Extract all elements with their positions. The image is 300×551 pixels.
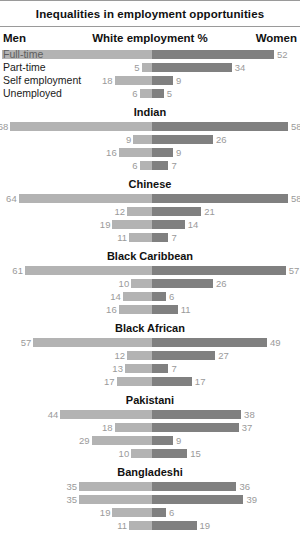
men-value-label: 29 <box>79 434 90 447</box>
women-value-label: 5 <box>167 87 172 100</box>
men-bar <box>119 148 152 157</box>
men-bar <box>142 63 152 72</box>
men-value-label: 68 <box>0 120 8 133</box>
men-bar <box>125 364 152 373</box>
women-bar <box>152 63 232 72</box>
men-bar <box>123 292 152 301</box>
women-bar <box>152 377 192 386</box>
men-value-label: 17 <box>104 375 115 388</box>
men-value-label: 19 <box>100 506 111 519</box>
women-bar <box>152 495 243 504</box>
women-bar <box>152 122 288 131</box>
bar-row: 6458 <box>0 192 300 205</box>
bar-row: 7252Full-time <box>0 48 300 61</box>
men-bar <box>79 482 152 491</box>
women-bar <box>152 207 201 216</box>
column-header-women: Women <box>256 32 297 44</box>
bar-row: 67 <box>0 159 300 172</box>
group-header: Bangladeshi <box>0 465 300 480</box>
group-header: Black Caribbean <box>0 249 300 264</box>
bar-rows: 353635391961119 <box>0 480 300 532</box>
men-bar <box>127 351 152 360</box>
bar-row: 1119 <box>0 519 300 532</box>
title-rule-bottom <box>0 26 300 27</box>
men-value-label: 6 <box>132 87 137 100</box>
men-bar <box>112 220 152 229</box>
men-bar <box>115 76 153 85</box>
women-value-label: 58 <box>291 120 300 133</box>
women-value-label: 34 <box>235 61 246 74</box>
bar-row: 117 <box>0 231 300 244</box>
women-value-label: 9 <box>176 74 181 87</box>
men-value-label: 11 <box>117 519 127 532</box>
bar-row: 926 <box>0 133 300 146</box>
women-value-label: 37 <box>242 421 253 434</box>
bar-rows: 615710261461611 <box>0 264 300 316</box>
title-block: Inequalities in employment opportunities <box>0 0 300 27</box>
men-value-label: 9 <box>126 133 131 146</box>
group-bangladeshi: Bangladeshi353635391961119 <box>0 465 300 536</box>
men-bar <box>140 89 153 98</box>
women-bar <box>152 508 166 517</box>
group-black-african: Black African574912271371717 <box>0 321 300 392</box>
women-bar <box>152 305 178 314</box>
bar-row: 1914 <box>0 218 300 231</box>
men-value-label: 10 <box>119 277 130 290</box>
men-value-label: 35 <box>67 493 78 506</box>
women-bar <box>152 135 213 144</box>
men-bar <box>117 377 152 386</box>
women-value-label: 19 <box>200 519 211 532</box>
men-value-label: 6 <box>132 159 137 172</box>
men-bar <box>10 122 152 131</box>
men-value-label: 13 <box>112 362 123 375</box>
women-bar <box>152 194 288 203</box>
bar-rows: 574912271371717 <box>0 336 300 388</box>
men-value-label: 14 <box>110 290 121 303</box>
groups-container: 7252Full-time534Part-time189Self employm… <box>0 48 300 536</box>
women-value-label: 57 <box>289 264 300 277</box>
group-spacer <box>0 316 300 320</box>
women-bar <box>152 266 286 275</box>
women-value-label: 21 <box>204 205 215 218</box>
men-bar <box>140 161 153 170</box>
bar-rows: 7252Full-time534Part-time189Self employm… <box>0 48 300 100</box>
group-header: Pakistani <box>0 393 300 408</box>
women-bar <box>152 521 197 530</box>
men-value-label: 12 <box>114 205 125 218</box>
women-value-label: 11 <box>181 303 191 316</box>
women-value-label: 52 <box>277 48 288 61</box>
women-value-label: 26 <box>216 133 227 146</box>
men-bar <box>60 410 152 419</box>
men-bar <box>112 508 152 517</box>
group-white: 7252Full-time534Part-time189Self employm… <box>0 48 300 104</box>
men-bar <box>131 279 152 288</box>
bar-rows: 443818372991015 <box>0 408 300 460</box>
men-value-label: 35 <box>67 480 78 493</box>
bar-row: 5749 <box>0 336 300 349</box>
bar-row: 6157 <box>0 264 300 277</box>
bar-row: 4438 <box>0 408 300 421</box>
women-value-label: 9 <box>176 146 181 159</box>
row-label-unemployed: Unemployed <box>3 87 62 100</box>
row-label-full-time: Full-time <box>3 48 43 61</box>
women-bar <box>152 148 173 157</box>
women-bar <box>152 161 168 170</box>
bar-row: 1015 <box>0 447 300 460</box>
women-bar <box>152 482 236 491</box>
group-indian: Indian685892616967 <box>0 105 300 176</box>
women-bar <box>152 351 215 360</box>
group-header: Black African <box>0 321 300 336</box>
women-bar <box>152 76 173 85</box>
men-value-label: 18 <box>102 74 113 87</box>
women-value-label: 17 <box>195 375 206 388</box>
men-value-label: 64 <box>6 192 17 205</box>
women-bar <box>152 89 164 98</box>
men-bar <box>133 135 152 144</box>
bar-row: 534Part-time <box>0 61 300 74</box>
group-pakistani: Pakistani443818372991015 <box>0 393 300 464</box>
women-value-label: 7 <box>171 362 176 375</box>
women-value-label: 6 <box>169 506 174 519</box>
men-bar <box>25 266 152 275</box>
group-spacer <box>0 388 300 392</box>
bar-row: 146 <box>0 290 300 303</box>
